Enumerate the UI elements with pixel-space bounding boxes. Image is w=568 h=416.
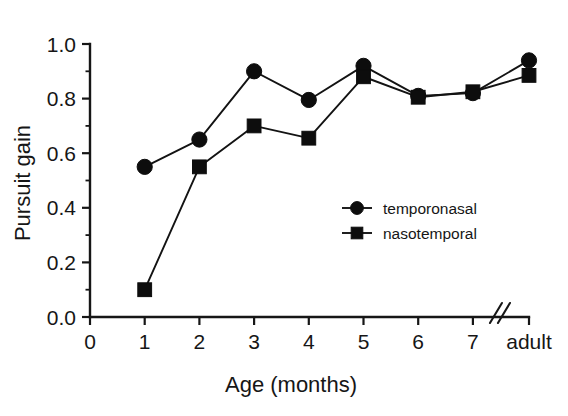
- data-point-nasotemporal: [522, 69, 536, 83]
- x-axis-tick-label: 5: [358, 330, 370, 353]
- y-axis-tick-label: 0.0: [47, 306, 76, 329]
- x-axis-tick-label: adult: [506, 330, 552, 353]
- legend-marker-circle-icon: [351, 202, 364, 215]
- x-axis-tick-label: 0: [84, 330, 96, 353]
- data-point-nasotemporal: [138, 283, 152, 297]
- data-point-temporonasal: [137, 159, 152, 174]
- x-axis-tick-label: 3: [248, 330, 260, 353]
- data-point-temporonasal: [192, 132, 207, 147]
- data-point-nasotemporal: [411, 90, 425, 104]
- legend-entry-label: temporonasal: [383, 200, 477, 217]
- chart-canvas: 0.00.20.40.60.81.0 01234567adult temporo…: [0, 0, 568, 416]
- legend-marker-square-icon: [351, 227, 363, 239]
- x-axis-tick-label: 6: [412, 330, 424, 353]
- x-axis-tick-label: 1: [139, 330, 151, 353]
- data-point-nasotemporal: [357, 70, 371, 84]
- x-axis-tick-label: 2: [194, 330, 206, 353]
- data-point-temporonasal: [301, 92, 316, 107]
- x-axis-tick-label: 4: [303, 330, 315, 353]
- y-axis-tick-label: 0.4: [47, 196, 77, 219]
- data-point-nasotemporal: [247, 119, 261, 133]
- y-axis-tick-label: 0.6: [47, 142, 76, 165]
- x-axis-tick-label: 7: [467, 330, 479, 353]
- y-axis-tick-label: 1.0: [47, 33, 76, 56]
- data-point-nasotemporal: [193, 160, 207, 174]
- legend-entry-label: nasotemporal: [383, 225, 477, 242]
- data-point-temporonasal: [521, 53, 536, 68]
- y-axis-title: Pursuit gain: [10, 125, 35, 241]
- data-point-nasotemporal: [302, 131, 316, 145]
- pursuit-gain-chart-figure: 0.00.20.40.60.81.0 01234567adult temporo…: [0, 0, 568, 416]
- y-axis-tick-label: 0.8: [47, 87, 76, 110]
- data-point-temporonasal: [247, 64, 262, 79]
- x-axis-title: Age (months): [225, 372, 357, 397]
- y-axis-tick-label: 0.2: [47, 251, 76, 274]
- data-point-nasotemporal: [466, 85, 480, 99]
